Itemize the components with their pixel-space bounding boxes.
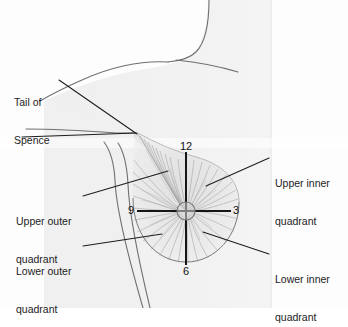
clock-position-6: 6 xyxy=(183,266,189,277)
label-upper-inner-line1: Upper inner xyxy=(275,177,330,190)
label-lower-inner-line2: quadrant xyxy=(275,311,330,324)
clock-position-3: 3 xyxy=(233,205,239,216)
label-lower-outer-line2: quadrant xyxy=(16,303,71,316)
label-upper-inner-quadrant: Upper inner quadrant xyxy=(275,152,330,252)
label-tail-of-spence-line2: Spence xyxy=(14,134,50,147)
label-tail-of-spence-line1: Tail of xyxy=(14,96,50,109)
label-upper-outer-line1: Upper outer xyxy=(16,215,71,228)
label-lower-inner-quadrant: Lower inner quadrant xyxy=(275,248,330,327)
label-lower-outer-line1: Lower outer xyxy=(16,265,71,278)
label-upper-inner-line2: quadrant xyxy=(275,215,330,228)
nipple-areola xyxy=(177,202,195,220)
clock-position-12: 12 xyxy=(180,141,192,152)
background-seam-band xyxy=(0,138,348,148)
clock-position-9: 9 xyxy=(128,205,134,216)
label-lower-outer-quadrant: Lower outer quadrant xyxy=(16,240,71,327)
label-lower-inner-line1: Lower inner xyxy=(275,273,330,286)
label-tail-of-spence: Tail of Spence xyxy=(14,71,50,171)
